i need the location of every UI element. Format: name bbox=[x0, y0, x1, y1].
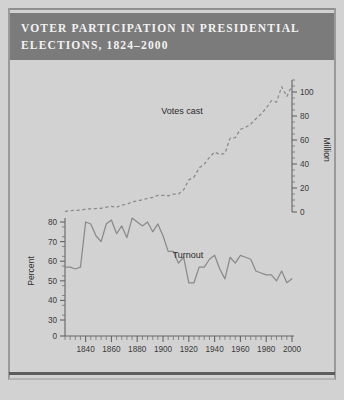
svg-text:30: 30 bbox=[48, 316, 58, 325]
svg-text:80: 80 bbox=[300, 112, 310, 121]
svg-text:1940: 1940 bbox=[206, 345, 225, 354]
svg-text:0: 0 bbox=[300, 208, 305, 217]
svg-text:1900: 1900 bbox=[154, 345, 173, 354]
page-title-line-2: ELECTIONS, 1824–2000 bbox=[21, 37, 334, 54]
footer-rule-light bbox=[9, 378, 335, 380]
votes-cast-series bbox=[65, 86, 292, 212]
svg-text:1840: 1840 bbox=[77, 345, 96, 354]
chart-title-band: VOTER PARTICIPATION IN PRESIDENTIAL ELEC… bbox=[10, 13, 334, 60]
votes-cast-series-label: Votes cast bbox=[161, 106, 203, 116]
votes-cast-axis: 020406080100 bbox=[292, 80, 314, 217]
footer-rule bbox=[9, 372, 335, 375]
chart-figure: 020406080100 Votes cast Million 03040506… bbox=[10, 62, 334, 367]
svg-text:60: 60 bbox=[48, 257, 58, 266]
chart-page: VOTER PARTICIPATION IN PRESIDENTIAL ELEC… bbox=[0, 0, 344, 400]
svg-text:1920: 1920 bbox=[180, 345, 199, 354]
svg-text:100: 100 bbox=[300, 88, 314, 97]
svg-text:80: 80 bbox=[48, 218, 58, 227]
svg-text:60: 60 bbox=[300, 136, 310, 145]
svg-text:40: 40 bbox=[48, 296, 58, 305]
turnout-axis-title: Percent bbox=[26, 256, 36, 286]
svg-text:1860: 1860 bbox=[102, 345, 121, 354]
frame-border-right bbox=[334, 8, 336, 380]
svg-text:50: 50 bbox=[48, 277, 58, 286]
votes-cast-axis-title: Million bbox=[322, 137, 332, 162]
turnout-axis: 0304050607080 bbox=[48, 218, 65, 341]
svg-text:1880: 1880 bbox=[128, 345, 147, 354]
svg-text:2000: 2000 bbox=[283, 345, 302, 354]
chart-svg: 020406080100 Votes cast Million 03040506… bbox=[10, 62, 334, 367]
x-axis: 184018601880190019201940196019802000 bbox=[65, 336, 302, 354]
svg-text:1980: 1980 bbox=[257, 345, 276, 354]
turnout-series-label: Turnout bbox=[173, 250, 204, 260]
svg-text:20: 20 bbox=[300, 184, 310, 193]
frame-border-top bbox=[8, 8, 336, 10]
svg-text:0: 0 bbox=[52, 332, 57, 341]
svg-text:70: 70 bbox=[48, 238, 58, 247]
svg-text:40: 40 bbox=[300, 160, 310, 169]
page-title-line-1: VOTER PARTICIPATION IN PRESIDENTIAL bbox=[21, 20, 334, 37]
svg-text:1960: 1960 bbox=[231, 345, 250, 354]
